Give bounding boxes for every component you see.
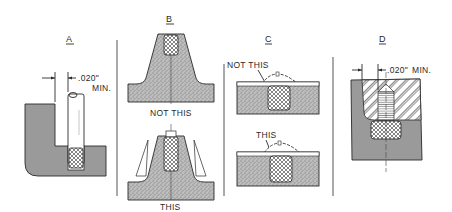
relief-right: [194, 140, 206, 176]
knurled-insert: [270, 156, 292, 182]
dimension-value: .020": [78, 73, 99, 83]
relief-left: [136, 140, 148, 176]
dimension-suffix: MIN.: [412, 65, 431, 75]
panel-a: A .020" MIN.: [25, 34, 111, 176]
dimension-suffix: MIN.: [92, 83, 111, 93]
panel-label-d: D: [379, 34, 386, 44]
dimension-value: .020": [387, 65, 408, 75]
knurled-insert: [268, 86, 290, 110]
insert-top: [166, 131, 176, 137]
caption-this: THIS: [256, 130, 277, 140]
knurled-insert: [164, 137, 178, 171]
panel-label-c: C: [265, 34, 272, 44]
l-block: [25, 104, 106, 176]
panel-label-b: B: [166, 14, 172, 24]
panel-b: B NOT THIS THIS: [128, 14, 214, 212]
screw-head: [264, 143, 300, 153]
panel-d: D .020" MIN.: [351, 34, 431, 172]
caption-not-this: NOT THIS: [227, 60, 269, 70]
knurled-insert: [164, 35, 178, 55]
technical-drawing: A .020" MIN. B NOT THIS: [0, 0, 452, 212]
caption-this: THIS: [160, 202, 181, 212]
panel-label-a: A: [66, 34, 72, 44]
caption-not-this: NOT THIS: [150, 108, 192, 118]
panel-c: C NOT THIS THIS: [227, 34, 319, 186]
knurled-insert: [69, 148, 83, 168]
